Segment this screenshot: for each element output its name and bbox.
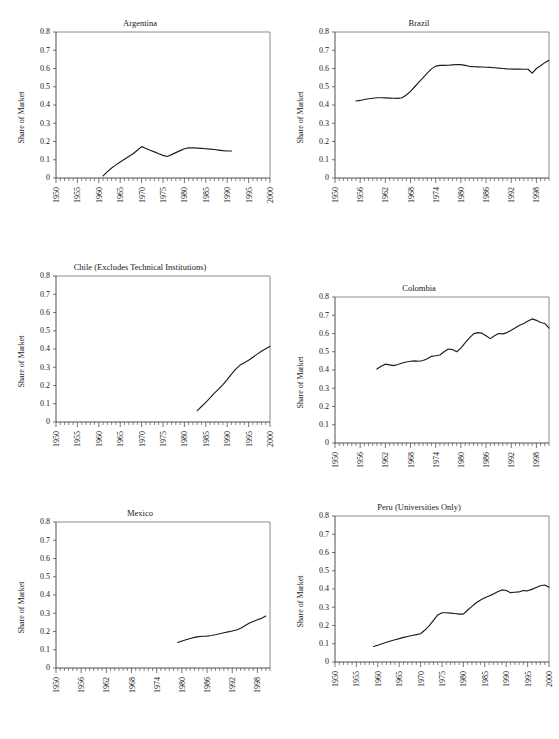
svg-text:1985: 1985	[202, 187, 211, 203]
svg-text:1950: 1950	[52, 187, 61, 203]
panel-mexico: Mexico Share of Market 00.10.20.30.40.50…	[4, 508, 276, 730]
svg-text:1974: 1974	[432, 187, 441, 203]
svg-text:0.6: 0.6	[40, 554, 50, 563]
svg-text:1970: 1970	[138, 187, 147, 203]
chart-mexico[interactable]: 00.10.20.30.40.50.60.70.8195019561962196…	[4, 508, 276, 730]
series-line-mexico	[178, 616, 266, 642]
svg-text:1980: 1980	[180, 187, 189, 203]
svg-text:1956: 1956	[356, 452, 365, 468]
svg-text:2000: 2000	[545, 671, 554, 687]
svg-text:1998: 1998	[532, 452, 541, 468]
svg-text:0.5: 0.5	[319, 82, 329, 91]
svg-text:1992: 1992	[507, 187, 516, 203]
svg-text:1990: 1990	[502, 671, 511, 687]
panel-chile: Chile (Excludes Technical Institutions) …	[4, 262, 276, 484]
svg-text:0.8: 0.8	[40, 517, 50, 526]
svg-text:0.8: 0.8	[319, 292, 329, 301]
svg-text:0.6: 0.6	[40, 308, 50, 317]
svg-text:1974: 1974	[432, 452, 441, 468]
svg-text:1995: 1995	[245, 187, 254, 203]
svg-text:0.2: 0.2	[319, 621, 329, 630]
svg-text:1995: 1995	[245, 431, 254, 447]
svg-text:0.5: 0.5	[40, 326, 50, 335]
svg-text:0.4: 0.4	[40, 344, 50, 353]
svg-text:1970: 1970	[138, 431, 147, 447]
svg-text:0: 0	[325, 657, 329, 666]
svg-text:0.3: 0.3	[319, 603, 329, 612]
svg-text:1986: 1986	[482, 452, 491, 468]
svg-text:1955: 1955	[352, 671, 361, 687]
svg-text:0.5: 0.5	[319, 347, 329, 356]
svg-text:1975: 1975	[159, 187, 168, 203]
chart-colombia[interactable]: 00.10.20.30.40.50.60.70.8195019561962196…	[283, 283, 555, 505]
chart-chile[interactable]: 00.10.20.30.40.50.60.70.8195019551960196…	[4, 262, 276, 484]
svg-text:0.8: 0.8	[40, 271, 50, 280]
panel-argentina: Argentina Share of Market 00.10.20.30.40…	[4, 18, 276, 240]
svg-text:1950: 1950	[331, 187, 340, 203]
svg-text:0: 0	[46, 417, 50, 426]
svg-text:1968: 1968	[128, 677, 137, 693]
svg-text:0.8: 0.8	[319, 27, 329, 36]
svg-text:1968: 1968	[407, 187, 416, 203]
series-line-brazil	[356, 60, 549, 101]
svg-text:0.1: 0.1	[319, 155, 329, 164]
svg-text:0.2: 0.2	[40, 627, 50, 636]
svg-text:0.3: 0.3	[40, 119, 50, 128]
svg-text:0.1: 0.1	[40, 645, 50, 654]
svg-text:1968: 1968	[407, 452, 416, 468]
svg-text:0.4: 0.4	[319, 584, 329, 593]
chart-brazil[interactable]: 00.10.20.30.40.50.60.70.8195019561962196…	[283, 18, 555, 240]
svg-text:0.5: 0.5	[40, 572, 50, 581]
svg-text:0.7: 0.7	[319, 46, 329, 55]
svg-text:1962: 1962	[381, 452, 390, 468]
svg-text:1950: 1950	[52, 431, 61, 447]
svg-text:1965: 1965	[395, 671, 404, 687]
svg-text:1990: 1990	[223, 431, 232, 447]
svg-text:1950: 1950	[331, 452, 340, 468]
svg-text:1960: 1960	[95, 431, 104, 447]
svg-text:1980: 1980	[180, 431, 189, 447]
svg-text:0.7: 0.7	[319, 530, 329, 539]
svg-text:0: 0	[46, 663, 50, 672]
svg-text:0.6: 0.6	[40, 64, 50, 73]
svg-text:0.2: 0.2	[40, 137, 50, 146]
svg-text:1998: 1998	[253, 677, 262, 693]
svg-text:0.6: 0.6	[319, 548, 329, 557]
svg-text:1956: 1956	[77, 677, 86, 693]
svg-text:1962: 1962	[102, 677, 111, 693]
svg-text:1955: 1955	[73, 431, 82, 447]
chart-peru[interactable]: 00.10.20.30.40.50.60.70.8195019551960196…	[283, 502, 555, 724]
svg-text:0.3: 0.3	[319, 119, 329, 128]
svg-text:0.2: 0.2	[40, 381, 50, 390]
svg-text:1980: 1980	[178, 677, 187, 693]
svg-text:0.7: 0.7	[40, 290, 50, 299]
svg-text:0.3: 0.3	[40, 363, 50, 372]
svg-text:1980: 1980	[457, 452, 466, 468]
svg-text:0.8: 0.8	[40, 27, 50, 36]
svg-text:1970: 1970	[417, 671, 426, 687]
svg-text:1950: 1950	[331, 671, 340, 687]
svg-text:1956: 1956	[356, 187, 365, 203]
series-line-peru	[374, 585, 549, 647]
svg-text:1998: 1998	[532, 187, 541, 203]
svg-text:1962: 1962	[381, 187, 390, 203]
figure-page: Argentina Share of Market 00.10.20.30.40…	[0, 0, 559, 739]
panel-peru: Peru (Universities Only) Share of Market…	[283, 502, 555, 724]
svg-text:0.4: 0.4	[319, 365, 329, 374]
svg-text:2000: 2000	[266, 431, 275, 447]
svg-text:0.5: 0.5	[40, 82, 50, 91]
svg-text:0.1: 0.1	[319, 639, 329, 648]
svg-text:1986: 1986	[482, 187, 491, 203]
svg-text:0.2: 0.2	[319, 402, 329, 411]
svg-text:1992: 1992	[228, 677, 237, 693]
chart-argentina[interactable]: 00.10.20.30.40.50.60.70.8195019551960196…	[4, 18, 276, 240]
svg-text:0.7: 0.7	[40, 46, 50, 55]
svg-text:1960: 1960	[95, 187, 104, 203]
series-line-argentina	[103, 147, 231, 176]
svg-text:0: 0	[325, 438, 329, 447]
svg-text:1955: 1955	[73, 187, 82, 203]
svg-text:1990: 1990	[223, 187, 232, 203]
svg-text:1975: 1975	[159, 431, 168, 447]
svg-text:2000: 2000	[266, 187, 275, 203]
svg-text:0.1: 0.1	[40, 155, 50, 164]
